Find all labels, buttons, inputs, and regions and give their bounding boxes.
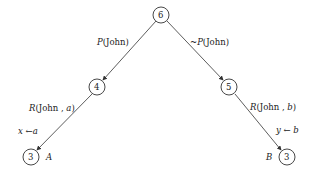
leaf-tag-b: B <box>266 152 272 162</box>
node-right-leaf-label: 3 <box>284 152 289 162</box>
substitution-y-b: y ← b <box>276 125 299 135</box>
edge-root-right <box>167 21 223 80</box>
tree-edges <box>0 0 317 175</box>
edge-label-not-p-john: ~P(John) <box>190 37 229 47</box>
edge-root-left <box>103 21 156 80</box>
edge-label-r-john-b: R(John , b) <box>250 102 296 112</box>
leaf-tag-a: A <box>46 152 52 162</box>
node-right-label: 5 <box>226 82 231 92</box>
edge-label-p-john: P(John) <box>97 37 129 47</box>
node-left-label: 4 <box>94 82 99 92</box>
substitution-x-a: x ←a <box>18 126 38 136</box>
node-left-leaf-label: 3 <box>28 152 33 162</box>
edge-label-r-john-a: R(John , a) <box>29 103 75 113</box>
node-root-label: 6 <box>158 10 163 20</box>
